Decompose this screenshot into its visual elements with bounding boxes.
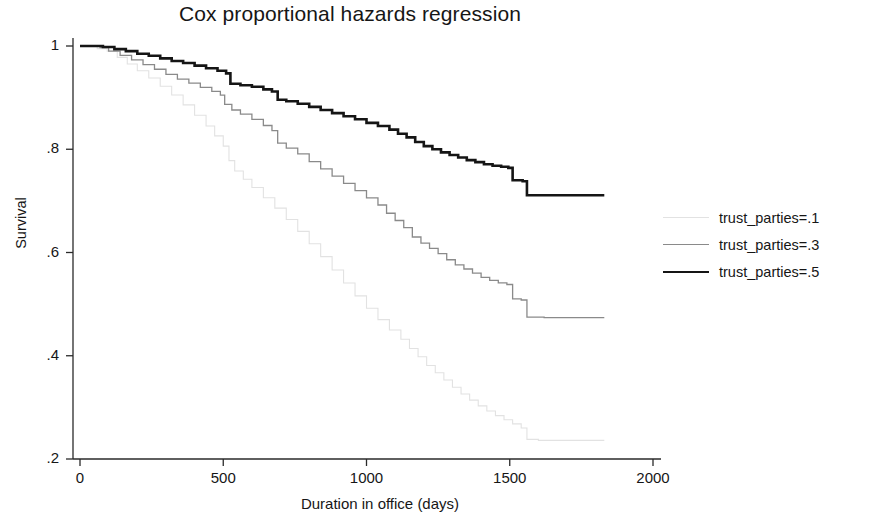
chart-legend: trust_parties=.1trust_parties=.3trust_pa…: [663, 204, 863, 285]
legend-item: trust_parties=.5: [663, 258, 863, 285]
legend-item: trust_parties=.1: [663, 204, 863, 231]
legend-line-swatch: [663, 271, 709, 273]
chart-title: Cox proportional hazards regression: [0, 2, 700, 26]
y-tick-label: .2: [25, 449, 59, 466]
y-tick-label: .8: [25, 139, 59, 156]
legend-item: trust_parties=.3: [663, 231, 863, 258]
y-tick-label: .4: [25, 346, 59, 363]
y-tick-label: 1: [25, 36, 59, 53]
survival-curve: [80, 46, 604, 440]
legend-label: trust_parties=.5: [719, 264, 819, 280]
legend-line-swatch: [663, 244, 709, 245]
y-tick-label: .6: [25, 243, 59, 260]
x-tick-label: 500: [193, 469, 253, 486]
x-tick-label: 0: [50, 469, 110, 486]
legend-label: trust_parties=.3: [719, 237, 819, 253]
x-axis-title: Duration in office (days): [150, 495, 610, 512]
x-tick-label: 2000: [623, 469, 683, 486]
legend-line-swatch: [663, 217, 709, 218]
x-tick-label: 1000: [337, 469, 397, 486]
legend-label: trust_parties=.1: [719, 210, 819, 226]
cox-regression-figure: Cox proportional hazards regression Surv…: [0, 0, 870, 524]
survival-curve: [80, 46, 604, 195]
x-tick-label: 1500: [480, 469, 540, 486]
